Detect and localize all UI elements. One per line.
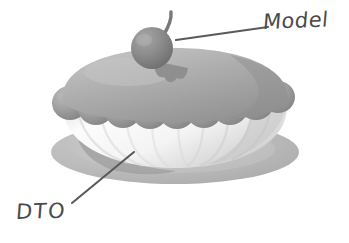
dome-group xyxy=(62,48,288,122)
annotation-label-dto: DTO xyxy=(15,199,67,224)
illustration-canvas: Model DTO xyxy=(0,0,349,243)
annotation-label-model: Model xyxy=(262,7,330,34)
cherry xyxy=(131,27,173,69)
cherry-highlight xyxy=(136,34,152,46)
model-leader-line xyxy=(176,27,268,40)
